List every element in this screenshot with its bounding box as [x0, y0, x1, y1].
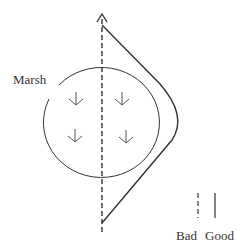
- down-arrow-icon: [68, 129, 82, 142]
- down-arrow-icon: [69, 92, 83, 105]
- marsh-label: Marsh: [13, 72, 46, 88]
- down-arrow-icon: [119, 130, 133, 143]
- good-boundary-curve: [102, 25, 178, 223]
- legend-good-label: Good: [205, 228, 234, 244]
- legend-bad-label: Bad: [176, 228, 197, 244]
- diagram-graphic: [0, 0, 244, 251]
- diagram-canvas: Marsh Bad Good: [0, 0, 244, 251]
- down-arrow-icon: [115, 92, 129, 105]
